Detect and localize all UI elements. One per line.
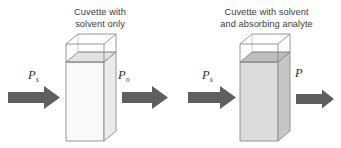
- beam-label-outgoing-left-subscript: o: [126, 76, 130, 84]
- panel-sample-cuvette: Cuvette with solvent and absorbing analy…: [176, 0, 341, 148]
- spectrophotometry-diagram: Cuvette with solvent only Ps Po Cuvette …: [0, 0, 341, 148]
- caption-sample-cuvette: Cuvette with solvent and absorbing analy…: [176, 6, 341, 31]
- beam-label-incident-left: Ps: [28, 68, 38, 83]
- beam-label-outgoing-left-symbol: P: [118, 68, 126, 82]
- beam-label-incident-right-subscript: s: [210, 76, 213, 84]
- beam-label-incident-left-symbol: P: [28, 68, 36, 82]
- beam-label-outgoing-right-symbol: P: [295, 66, 303, 80]
- beam-label-incident-right-symbol: P: [202, 68, 210, 82]
- beam-label-incident-left-subscript: s: [36, 76, 39, 84]
- panel-reference-cuvette: Cuvette with solvent only Ps Po: [0, 0, 176, 148]
- beam-label-outgoing-right: P: [295, 66, 303, 81]
- beam-label-incident-right: Ps: [202, 68, 212, 83]
- beam-label-outgoing-left: Po: [118, 68, 129, 83]
- caption-reference-cuvette: Cuvette with solvent only: [0, 6, 188, 31]
